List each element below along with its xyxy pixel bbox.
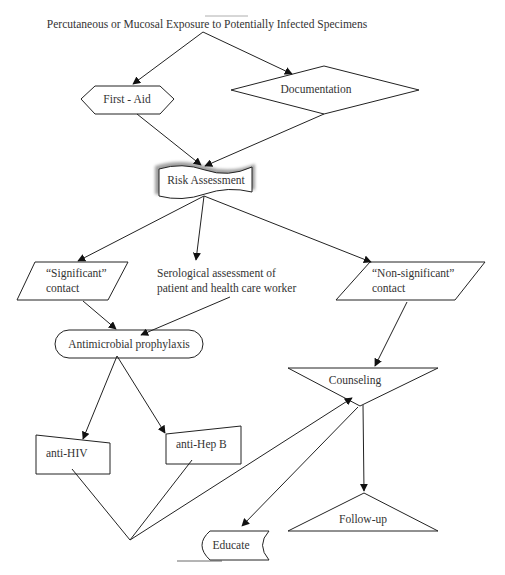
significant-label-line2: contact [46, 281, 79, 295]
edge-significant-antimicrobial [83, 301, 116, 329]
non-significant-label-line2: contact [372, 281, 405, 295]
documentation-label: Documentation [281, 82, 352, 96]
non-significant-label-line1: “Non-significant” [372, 266, 454, 280]
edge-serological-antimicrobial [141, 297, 230, 335]
edge-title-firstaid [133, 32, 203, 84]
first-aid-label: First - Aid [103, 92, 150, 106]
edge-firstaid-risk [137, 114, 201, 165]
edge-antimicrobial-antihiv [83, 356, 117, 439]
anti-hiv-label: anti-HIV [46, 446, 88, 460]
edge-risk-serological [196, 196, 204, 260]
serological-label-line2: patient and health care worker [157, 281, 296, 295]
follow-up-label: Follow-up [339, 512, 387, 526]
anti-hepb-label: anti-Hep B [176, 437, 227, 451]
edge-documentation-risk [205, 114, 324, 166]
diagram-title: Percutaneous or Mucosal Exposure to Pote… [47, 17, 367, 31]
edge-nonsignificant-counseling [375, 302, 407, 366]
risk-assessment-label: Risk Assessment [167, 173, 245, 187]
edge-risk-nonsignificant [204, 196, 371, 262]
counseling-label: Counseling [329, 373, 381, 387]
edge-counseling-followup [363, 405, 364, 491]
edge-title-documentation [203, 32, 292, 74]
educate-label: Educate [212, 538, 249, 552]
antimicrobial-label: Antimicrobial prophylaxis [68, 337, 190, 351]
edge-antimicrobial-antihepb [117, 356, 165, 433]
edge-risk-significant [78, 196, 204, 261]
significant-label-line1: “Significant” [46, 266, 107, 280]
serological-label-line1: Serological assessment of [157, 266, 276, 280]
